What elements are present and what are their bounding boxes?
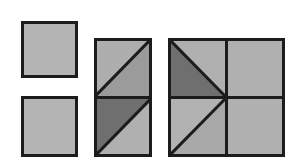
cell-fill bbox=[227, 38, 286, 98]
two-cell-rectangle-middle-cell-bottom bbox=[94, 98, 152, 158]
figure-canvas bbox=[0, 0, 301, 164]
four-cell-square-right-cell-top-left bbox=[168, 38, 227, 98]
plain-square-bottom-left bbox=[21, 96, 78, 157]
cell-fill bbox=[21, 21, 78, 78]
cell-fill bbox=[227, 98, 286, 158]
plain-square-top-left bbox=[21, 21, 78, 78]
cell-fill bbox=[21, 96, 78, 157]
four-cell-square-right-cell-top-right bbox=[227, 38, 286, 98]
four-cell-square-right bbox=[168, 38, 285, 157]
four-cell-square-right-cell-bottom-right bbox=[227, 98, 286, 158]
two-cell-rectangle-middle bbox=[94, 38, 152, 157]
two-cell-rectangle-middle-cell-top bbox=[94, 38, 152, 98]
four-cell-square-right-cell-bottom-left bbox=[168, 98, 227, 158]
plain-square-top-left-cell-1 bbox=[21, 21, 78, 78]
plain-square-bottom-left-cell-1 bbox=[21, 96, 78, 157]
